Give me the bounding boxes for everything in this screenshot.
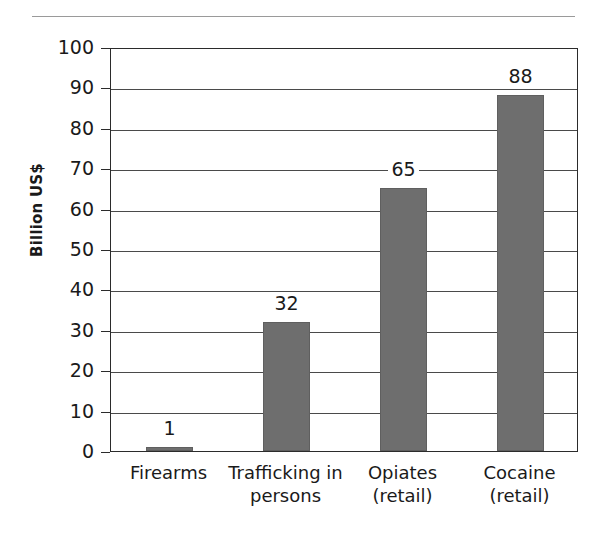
bar-value-label: 1 [125,419,215,438]
y-tick-mark [101,48,110,49]
y-tick-mark [101,290,110,291]
y-tick-mark [101,169,110,170]
gridline [111,89,577,90]
y-tick-mark [101,88,110,89]
plot-area: 1326588 [110,48,578,452]
bar [263,322,310,451]
bar-value-label: 88 [476,67,566,86]
y-tick-mark [101,250,110,251]
bar [380,188,427,451]
y-tick-label: 90 [6,78,94,97]
top-horizontal-rule [32,16,575,17]
y-tick-mark [101,452,110,453]
y-tick-label: 70 [6,159,94,178]
bar-value-label: 65 [359,160,449,179]
x-category-label: Cocaine(retail) [450,461,590,507]
x-category-label-line: (retail) [450,484,590,507]
y-tick-label: 50 [6,240,94,259]
x-category-label-line: Cocaine [450,461,590,484]
y-tick-mark [101,371,110,372]
bar [497,95,544,451]
y-tick-mark [101,210,110,211]
bar-value-label: 32 [242,294,332,313]
y-tick-mark [101,331,110,332]
y-tick-label: 30 [6,321,94,340]
y-tick-label: 80 [6,119,94,138]
y-tick-mark [101,129,110,130]
y-tick-label: 40 [6,280,94,299]
y-tick-label: 10 [6,402,94,421]
y-tick-label: 100 [6,38,94,57]
y-tick-label: 60 [6,200,94,219]
bar [146,447,193,451]
y-tick-mark [101,412,110,413]
y-tick-label: 20 [6,361,94,380]
y-tick-label: 0 [6,442,94,461]
bar-chart-figure: Billion US$ 0102030405060708090100 13265… [0,0,605,534]
